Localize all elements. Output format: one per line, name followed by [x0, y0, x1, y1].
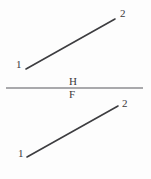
- front-view-line-segment: [27, 106, 118, 157]
- front-view-endpoint-label-2: 2: [122, 98, 128, 109]
- top-view-endpoint-label-2: 2: [120, 8, 126, 19]
- fold-line-label-f: F: [69, 89, 75, 100]
- top-view-endpoint-label-1: 1: [16, 59, 22, 70]
- fold-line-label-h: H: [69, 76, 77, 87]
- geometry-figure: 1 2 H F 1 2: [0, 0, 151, 179]
- front-view-endpoint-label-1: 1: [18, 148, 24, 159]
- top-view-line-segment: [26, 19, 115, 69]
